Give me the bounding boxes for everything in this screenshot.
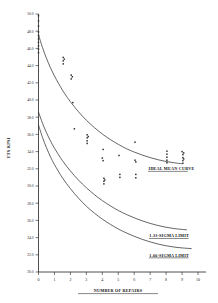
y-axis-title: UTS KPSI (6, 137, 11, 158)
x-axis: 012345678910 (38, 272, 207, 282)
data-point (102, 157, 104, 159)
data-point (118, 155, 120, 157)
y-tick-label: 22.0 (27, 253, 33, 257)
data-point (102, 149, 104, 151)
data-point (72, 102, 74, 104)
data-point (182, 154, 184, 156)
data-point (166, 162, 168, 164)
data-point (38, 42, 40, 44)
x-tick-group: 012345678910 (38, 272, 201, 282)
y-tick-label: 50.0 (27, 12, 33, 16)
data-point (62, 57, 64, 59)
y-axis: 50.048.046.044.042.040.038.036.034.032.0… (27, 12, 38, 274)
data-point (102, 160, 104, 162)
data-point (134, 141, 136, 143)
data-point (38, 15, 40, 17)
data-point (166, 150, 168, 152)
y-tick-group: 50.048.046.044.042.040.038.036.034.032.0… (27, 12, 38, 274)
x-tick-label: 7 (149, 277, 151, 282)
y-tick-label: 26.0 (27, 219, 33, 223)
data-point (103, 178, 105, 180)
y-tick-label: 36.0 (27, 133, 33, 137)
x-tick-label: 1 (53, 277, 55, 282)
data-point (135, 161, 137, 163)
y-tick-label: 44.0 (27, 64, 33, 68)
data-point (103, 183, 105, 185)
y-tick-label: 34.0 (27, 150, 33, 154)
data-point (38, 49, 40, 51)
data-point (135, 174, 137, 176)
data-point (182, 157, 184, 159)
y-tick-label: 30.0 (27, 184, 33, 188)
data-point (166, 156, 168, 158)
y-tick-label: 42.0 (27, 81, 33, 85)
x-tick-label: 6 (133, 277, 135, 282)
data-point (38, 45, 40, 47)
data-point (74, 128, 76, 130)
data-point (119, 177, 121, 179)
y-tick-label: 32.0 (27, 167, 33, 171)
y-tick-label: 40.0 (27, 98, 33, 102)
data-point (181, 151, 183, 153)
data-point (183, 152, 185, 154)
data-point (135, 177, 137, 179)
data-point (62, 60, 64, 62)
data-point (103, 181, 105, 183)
fitted-curves (39, 35, 192, 249)
x-tick-label: 8 (165, 277, 167, 282)
data-point (38, 31, 40, 32)
data-point (38, 25, 40, 27)
x-tick-label: 4 (101, 277, 103, 282)
data-point (119, 174, 121, 176)
data-point (183, 158, 185, 160)
data-point (104, 179, 106, 181)
data-point (86, 134, 88, 136)
fitted-curve (39, 35, 183, 164)
x-tick-label: 2 (69, 277, 71, 282)
x-tick-label: 0 (38, 277, 40, 282)
data-point (38, 35, 40, 37)
data-point (72, 76, 74, 78)
data-point (70, 74, 72, 76)
x-tick-label: 10 (196, 277, 200, 282)
y-tick-label: 38.0 (27, 116, 33, 120)
annotation-label: IDEAL MEAN CURVE (149, 166, 195, 171)
y-tick-label: 46.0 (27, 47, 33, 51)
y-tick-label: 48.0 (27, 30, 33, 34)
data-point (70, 78, 72, 80)
data-point (166, 153, 168, 155)
scatter-plot-svg: UTS KPSI NUMBER OF REPAIRS 50.048.046.04… (0, 0, 218, 303)
data-point (38, 20, 40, 22)
data-point (134, 159, 136, 161)
x-axis-title: NUMBER OF REPAIRS (94, 288, 143, 293)
y-tick-label: 28.0 (27, 202, 33, 206)
data-point (182, 160, 184, 162)
x-tick-label: 3 (85, 277, 87, 282)
data-point (166, 159, 168, 161)
annotation-label: 1.66-SIGMA LIMIT (149, 253, 189, 258)
data-point (182, 162, 184, 164)
data-point (38, 38, 40, 40)
y-tick-label: 24.0 (27, 236, 33, 240)
data-points (38, 15, 185, 185)
data-point (38, 52, 40, 54)
data-point (64, 58, 65, 60)
data-point (86, 140, 88, 142)
x-tick-label: 5 (117, 277, 119, 282)
y-tick-label: 20.0 (27, 270, 33, 274)
data-point (86, 143, 88, 145)
annotation-label: 1.33-SIGMA LIMIT (149, 233, 189, 238)
fitted-curve (39, 125, 192, 249)
curve-annotations: IDEAL MEAN CURVE1.33-SIGMA LIMIT1.66-SIG… (148, 166, 194, 258)
data-point (62, 63, 64, 65)
x-tick-label: 9 (181, 277, 183, 282)
chart-figure: UTS KPSI NUMBER OF REPAIRS 50.048.046.04… (0, 0, 218, 303)
data-point (86, 137, 88, 139)
data-point (88, 136, 90, 138)
